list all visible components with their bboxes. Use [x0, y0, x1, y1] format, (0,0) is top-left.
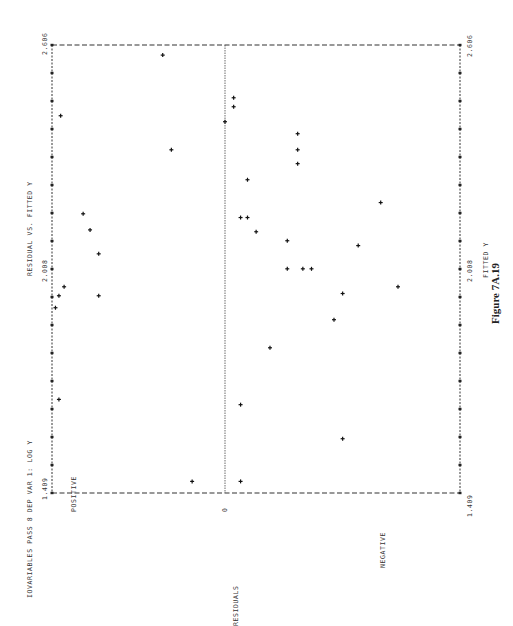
axis-tick: [459, 268, 462, 270]
residual-axis-label: RESIDUALS: [232, 585, 240, 626]
data-point: [285, 267, 289, 271]
axis-tick: [459, 324, 462, 326]
data-point: [97, 294, 101, 298]
axis-tick: [459, 184, 462, 186]
data-point: [62, 285, 66, 289]
data-point: [232, 105, 236, 109]
axis-tick: [459, 296, 462, 298]
axis-tick: [459, 492, 462, 494]
axis-tick: [51, 492, 54, 494]
axis-tick: [459, 156, 462, 158]
data-point: [268, 346, 272, 350]
data-point: [356, 244, 360, 248]
residual-negative-label: NEGATIVE: [379, 532, 387, 568]
axis-tick: [51, 268, 54, 270]
data-point: [396, 285, 400, 289]
axis-tick: [459, 240, 462, 242]
data-point: [245, 178, 249, 182]
tick-label-right-max: 2.606: [466, 34, 474, 57]
residual-positive-label: POSITIVE: [70, 476, 78, 512]
tick-label-left-min: 1.409: [41, 477, 49, 500]
axis-tick: [51, 464, 54, 466]
tick-label-left-max: 2.606: [41, 32, 49, 55]
axis-tick: [459, 72, 462, 74]
axis-tick: [51, 44, 54, 46]
data-point: [341, 437, 345, 441]
axis-tick: [51, 296, 54, 298]
data-point: [296, 148, 300, 152]
data-point: [285, 239, 289, 243]
axis-tick: [51, 212, 54, 214]
axis-tick: [51, 380, 54, 382]
data-point: [81, 212, 85, 216]
axis-tick: [459, 408, 462, 410]
data-point: [232, 96, 236, 100]
axis-tick: [459, 464, 462, 466]
data-point: [97, 252, 101, 256]
data-point: [310, 267, 314, 271]
axis-tick: [51, 352, 54, 354]
data-point: [239, 216, 243, 220]
data-point: [161, 53, 165, 57]
axis-tick: [51, 100, 54, 102]
axis-tick: [51, 324, 54, 326]
data-point: [254, 230, 258, 234]
data-point: [239, 403, 243, 407]
data-point: [57, 294, 61, 298]
axis-tick: [51, 72, 54, 74]
axis-tick: [51, 128, 54, 130]
axis-tick: [459, 436, 462, 438]
axis-tick: [51, 184, 54, 186]
data-point: [239, 479, 243, 483]
data-point: [169, 148, 173, 152]
data-point: [296, 162, 300, 166]
data-point: [88, 228, 92, 232]
data-point: [301, 267, 305, 271]
axis-tick: [459, 212, 462, 214]
axis-tick: [459, 352, 462, 354]
data-points: [53, 53, 400, 483]
tick-label-right-mid: 2.008: [466, 259, 474, 282]
data-point: [332, 318, 336, 322]
axis-tick: [51, 156, 54, 158]
tick-label-right-min: 1.409: [466, 494, 474, 517]
data-point: [223, 120, 227, 124]
figure-caption: Figure 7A.19: [489, 263, 501, 324]
data-point: [296, 132, 300, 136]
axis-tick: [459, 128, 462, 130]
data-point: [245, 216, 249, 220]
run-title: IOVARIABLES PASS 8 DEP VAR 1: LOG Y: [26, 440, 34, 598]
data-point: [341, 292, 345, 296]
data-point: [379, 201, 383, 205]
data-point: [53, 306, 57, 310]
axis-tick: [51, 436, 54, 438]
axis-tick: [459, 44, 462, 46]
axis-tick: [51, 240, 54, 242]
plot-title: RESIDUAL VS. FITTED Y: [26, 181, 34, 276]
axis-ticks: [51, 44, 462, 494]
residual-zero-label: 0: [221, 507, 229, 512]
axis-tick: [459, 380, 462, 382]
data-point: [57, 397, 61, 401]
tick-label-left-mid: 2.008: [41, 259, 49, 282]
data-point: [190, 479, 194, 483]
axis-tick: [51, 408, 54, 410]
axis-tick: [459, 100, 462, 102]
data-point: [59, 114, 63, 118]
